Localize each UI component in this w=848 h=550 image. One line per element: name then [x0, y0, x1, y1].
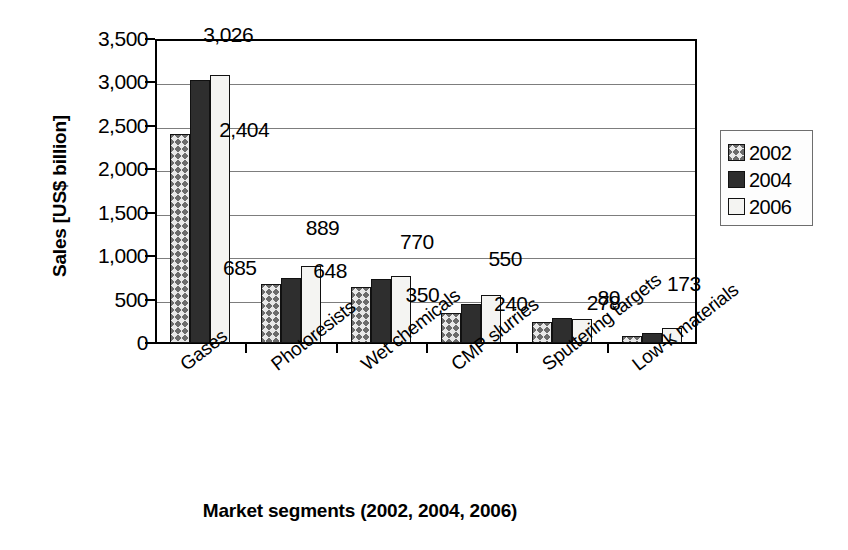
x-tick-mark	[245, 344, 247, 353]
bar-2006-gases	[210, 75, 230, 343]
legend-swatch-icon	[728, 171, 745, 188]
x-tick-mark	[336, 344, 338, 353]
y-tick-mark	[145, 38, 155, 40]
legend-swatch-icon	[728, 198, 745, 215]
y-tick-mark	[145, 255, 155, 257]
data-label: 770	[400, 230, 434, 254]
y-tick-mark	[145, 81, 155, 83]
bar-2002-sputtering-targets	[532, 322, 552, 343]
y-axis-tick-labels: 05001,0001,5002,0002,5003,0003,500	[52, 0, 148, 550]
y-tick-label: 3,500	[56, 27, 148, 51]
x-tick-mark	[516, 344, 518, 353]
bar-2002-gases	[170, 134, 190, 343]
legend-label: 2002	[749, 143, 792, 163]
y-tick-label: 1,000	[56, 244, 148, 268]
bar-2004-gases	[190, 80, 210, 343]
data-label: 2,404	[219, 118, 269, 142]
x-tick-mark	[426, 344, 428, 353]
y-tick-mark	[145, 125, 155, 127]
y-tick-mark	[145, 212, 155, 214]
data-label: 550	[488, 247, 522, 271]
data-label: 685	[223, 256, 257, 280]
data-label: 648	[313, 259, 347, 283]
legend-item-2002[interactable]: 2002	[728, 139, 812, 166]
y-tick-label: 0	[56, 331, 148, 355]
x-tick-mark	[607, 344, 609, 353]
bar-chart: Sales [US$ billion] 05001,0001,5002,0002…	[0, 0, 848, 550]
legend-item-2004[interactable]: 2004	[728, 166, 812, 193]
x-axis-title: Market segments (2002, 2004, 2006)	[0, 500, 720, 522]
y-tick-label: 1,500	[56, 201, 148, 225]
legend: 200220042006	[720, 130, 813, 226]
y-tick-label: 2,000	[56, 157, 148, 181]
bar-2002-low-k-materials	[622, 336, 642, 343]
legend-swatch-icon	[728, 144, 745, 161]
bar-2002-photoresists	[261, 284, 281, 343]
y-tick-mark	[145, 342, 155, 344]
y-tick-label: 2,500	[56, 114, 148, 138]
y-tick-label: 500	[56, 288, 148, 312]
y-tick-mark	[145, 299, 155, 301]
legend-label: 2006	[749, 197, 792, 217]
data-label: 3,026	[203, 23, 253, 47]
data-label: 173	[667, 272, 701, 296]
legend-item-2006[interactable]: 2006	[728, 193, 812, 220]
y-tick-label: 3,000	[56, 70, 148, 94]
legend-label: 2004	[749, 170, 792, 190]
y-tick-mark	[145, 168, 155, 170]
data-label: 889	[306, 216, 340, 240]
